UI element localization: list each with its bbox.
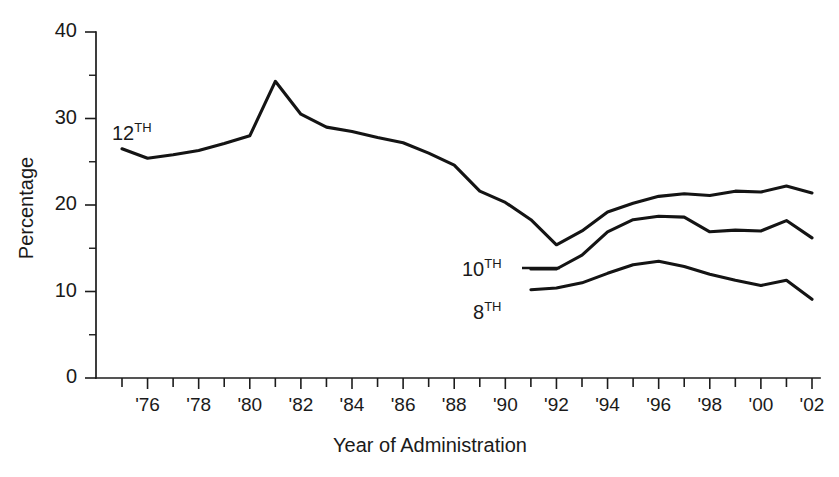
label-10th-base: 10	[462, 258, 484, 280]
x-tick-label-1976: '76	[135, 394, 160, 415]
label-8th-base: 8	[473, 301, 484, 323]
y-tick-label-20: 20	[55, 192, 77, 214]
chart-figure: 010203040 '76'78'80'82'84'86'88'90'92'94…	[0, 0, 839, 477]
x-tick-label-2000: '00	[749, 394, 774, 415]
y-tick-label-30: 30	[55, 106, 77, 128]
x-tick-label-2002: '02	[800, 394, 825, 415]
x-tick-label-1990: '90	[493, 394, 518, 415]
label-12th-base: 12	[112, 122, 134, 144]
x-tick-label-1986: '86	[391, 394, 416, 415]
y-tick-label-10: 10	[55, 279, 77, 301]
x-tick-label-1980: '80	[237, 394, 262, 415]
label-8th-sup: TH	[484, 299, 501, 314]
x-tick-label-1998: '98	[697, 394, 722, 415]
x-tick-label-1984: '84	[340, 394, 365, 415]
x-tick-label-1978: '78	[186, 394, 211, 415]
x-tick-label-1988: '88	[442, 394, 467, 415]
x-tick-label-1982: '82	[289, 394, 314, 415]
y-tick-label-0: 0	[66, 365, 77, 387]
line-chart-svg: 010203040 '76'78'80'82'84'86'88'90'92'94…	[0, 0, 839, 477]
y-axis-title: Percentage	[15, 157, 37, 259]
y-tick-label-40: 40	[55, 19, 77, 41]
x-tick-label-1994: '94	[595, 394, 620, 415]
x-axis-title: Year of Administration	[333, 434, 527, 456]
label-10th-sup: TH	[484, 256, 501, 271]
label-12th-sup: TH	[134, 120, 151, 135]
x-tick-label-1992: '92	[544, 394, 569, 415]
x-tick-label-1996: '96	[646, 394, 671, 415]
